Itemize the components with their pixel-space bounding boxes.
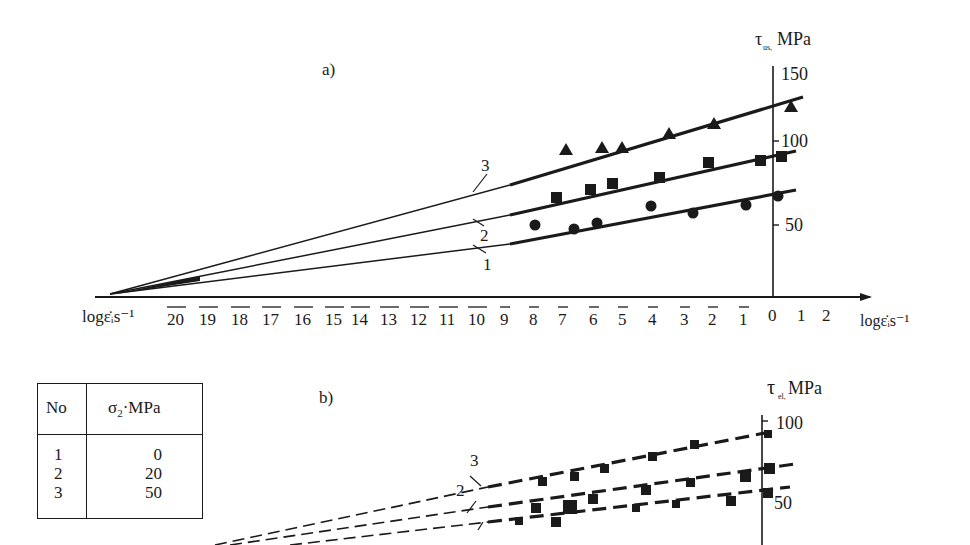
- x-axis-label-right: logε̇ᵢs⁻¹: [860, 312, 909, 330]
- svg-text:13: 13: [380, 310, 397, 329]
- svg-text:17: 17: [262, 310, 280, 329]
- curve-label-b-3: 3: [470, 451, 479, 470]
- panel-a-label: a): [322, 60, 335, 79]
- line-1-extrapolated: [110, 244, 510, 294]
- svg-text:1: 1: [739, 310, 748, 329]
- legend-rows-values: 0 20 50: [145, 445, 162, 502]
- x-tick-labels-positive: 0 1 2: [768, 306, 831, 325]
- panel-a-y-tick-150: 150: [781, 64, 808, 84]
- panel-b: b) τ el, MPa 100 50: [215, 376, 822, 545]
- legend-row-3-value: 50: [145, 483, 162, 502]
- panel-a-x-axis-arrow-icon: [860, 293, 872, 301]
- line-3-b-extrapolated: [215, 487, 488, 545]
- legend-row-1-value: 0: [145, 445, 162, 464]
- legend-table-divider: [86, 384, 87, 518]
- legend-table: No σ2·MPa 1 2 3 0 20 50: [37, 383, 203, 519]
- line-3-fit: [510, 97, 803, 185]
- panel-b-y-label-tau: τ: [767, 376, 775, 398]
- svg-text:14: 14: [351, 310, 369, 329]
- x-tick-labels-negative: 20 19 18 17 16 15 14 13 12 11 10 9 8 7 6…: [167, 310, 748, 329]
- svg-text:6: 6: [589, 310, 598, 329]
- panel-a-y-label-tau: τ: [755, 29, 762, 49]
- legend-rows-no: 1 2 3: [54, 445, 63, 502]
- series-2-markers: [551, 151, 787, 203]
- svg-text:20: 20: [167, 310, 184, 329]
- legend-row-2-value: 20: [145, 464, 162, 483]
- panel-a: 3 2 1 a) τ us, MPa 150 100 50 logε̇ᵢs⁻¹ …: [82, 29, 909, 330]
- svg-text:16: 16: [294, 310, 311, 329]
- svg-text:1: 1: [797, 306, 806, 325]
- svg-text:12: 12: [410, 310, 427, 329]
- panel-b-label: b): [319, 388, 333, 407]
- series-1-markers: [530, 191, 784, 235]
- svg-text:9: 9: [500, 310, 509, 329]
- svg-text:2: 2: [822, 306, 831, 325]
- svg-text:19: 19: [199, 310, 216, 329]
- svg-text:18: 18: [231, 310, 248, 329]
- line-2-b-extrapolated: [230, 507, 488, 545]
- panel-b-markers: [515, 430, 775, 527]
- panel-b-y-label-sub: el,: [778, 392, 786, 401]
- legend-row-3-no: 3: [54, 483, 63, 502]
- curve-label-2: 2: [480, 226, 489, 245]
- curve-label-b-2: 2: [456, 481, 465, 500]
- line-3-b-fit: [488, 431, 775, 487]
- legend-row-2-no: 2: [54, 464, 63, 483]
- curve-label-3: 3: [481, 156, 490, 175]
- svg-text:5: 5: [618, 310, 627, 329]
- x-axis-label-left: logε̇ᵢs⁻¹: [82, 307, 134, 326]
- svg-text:4: 4: [648, 310, 657, 329]
- svg-text:8: 8: [529, 310, 538, 329]
- panel-a-y-label-unit: MPa: [777, 29, 811, 49]
- panel-b-y-tick-100: 100: [776, 413, 803, 433]
- svg-text:11: 11: [439, 310, 455, 329]
- svg-text:10: 10: [468, 310, 485, 329]
- line-3-extrapolated: [110, 185, 510, 294]
- panel-a-y-label-sub: us,: [763, 43, 772, 52]
- panel-a-y-tick-50: 50: [785, 215, 803, 235]
- line-1-b-extrapolated: [290, 522, 488, 545]
- legend-row-1-no: 1: [54, 445, 63, 464]
- panel-a-y-tick-100: 100: [781, 131, 808, 151]
- legend-header-sigma: σ2·MPa: [108, 398, 160, 419]
- legend-header-no: No: [46, 398, 67, 418]
- svg-text:0: 0: [768, 306, 777, 325]
- svg-text:7: 7: [558, 310, 567, 329]
- svg-text:3: 3: [680, 310, 689, 329]
- panel-b-y-label-unit: MPa: [788, 378, 822, 398]
- line-2-extrapolated: [110, 215, 510, 294]
- svg-text:2: 2: [708, 310, 717, 329]
- curve-label-1: 1: [483, 255, 492, 274]
- panel-b-y-tick-50: 50: [774, 493, 792, 513]
- svg-text:15: 15: [325, 310, 342, 329]
